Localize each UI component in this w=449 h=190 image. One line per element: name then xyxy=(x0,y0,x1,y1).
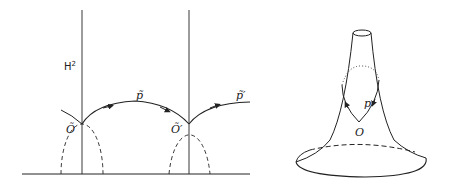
point-label-o-tilde-prime: Õ′ xyxy=(171,122,183,136)
path-label-p-tilde: p̃ xyxy=(136,89,143,102)
arrow-icon xyxy=(346,104,348,108)
diagram-canvas: H2 Õ Õ′ p̃ p̃′ O p xyxy=(0,0,449,190)
dashed-arc-right xyxy=(169,135,210,174)
loop-label-p: p xyxy=(364,97,371,110)
path-arc-p-tilde xyxy=(82,101,189,124)
right-profile xyxy=(371,33,426,158)
path-label-p-tilde-prime: p̃′ xyxy=(236,89,246,102)
bottom-rim-left-cap xyxy=(296,150,310,162)
incoming-arc xyxy=(61,110,82,124)
space-label: H2 xyxy=(64,60,76,72)
point-label-o-tilde: Õ xyxy=(66,122,75,136)
pseudosphere: O p xyxy=(296,30,426,177)
top-rim xyxy=(353,30,371,36)
upper-half-plane: H2 Õ Õ′ p̃ p̃′ xyxy=(22,10,250,174)
bottom-rim-front xyxy=(296,158,426,177)
path-arc-p-tilde-prime xyxy=(189,102,250,124)
point-label-o: O xyxy=(355,126,364,139)
bottom-rim-back xyxy=(310,144,415,152)
left-profile xyxy=(296,33,353,162)
